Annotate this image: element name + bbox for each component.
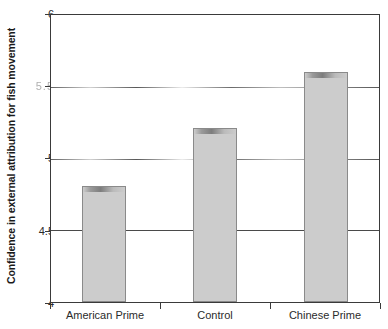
x-tick-mark-2 xyxy=(270,303,271,309)
y-axis-title: Confidence in external attribution for f… xyxy=(0,0,22,312)
plot-area xyxy=(50,14,380,303)
x-tick-label-control: Control xyxy=(197,309,232,321)
x-tick-mark-1 xyxy=(160,303,161,309)
bar-control[interactable] xyxy=(193,128,237,302)
x-tick-mark-end xyxy=(380,303,381,309)
bar-top-edge-smudge xyxy=(194,129,236,134)
bar-american-prime[interactable] xyxy=(82,186,126,302)
x-tick-label-american-prime: American Prime xyxy=(66,309,144,321)
bar-top-edge-smudge xyxy=(83,187,125,192)
y-axis-title-label: Confidence in external attribution for f… xyxy=(5,28,17,284)
bar-chart-figure: Confidence in external attribution for f… xyxy=(0,0,388,329)
bar-top-edge-smudge xyxy=(305,73,347,78)
bar-chinese-prime[interactable] xyxy=(304,72,348,302)
x-tick-mark-start xyxy=(50,303,51,309)
x-tick-label-chinese-prime: Chinese Prime xyxy=(289,309,361,321)
